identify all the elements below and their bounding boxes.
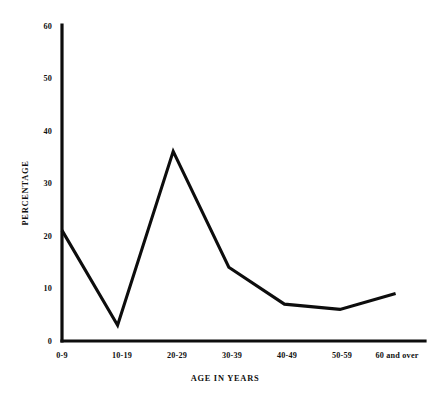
x-tick-label-10-19: 10-19 [112, 351, 132, 360]
y-tick-label-0: 0 [48, 337, 52, 346]
y-tick-label-30: 30 [43, 179, 52, 188]
x-tick-label-40-49: 40-49 [277, 351, 297, 360]
x-tick-label-20-29: 20-29 [167, 351, 187, 360]
chart-canvas: 60 50 40 30 20 10 0 0-9 10-19 20-29 30-3… [0, 0, 439, 406]
x-tick-label-50-59: 50-59 [332, 351, 352, 360]
y-axis-title: PERCENTAGE [21, 160, 30, 225]
x-axis-title: AGE IN YEARS [191, 374, 260, 383]
y-tick-label-20: 20 [43, 232, 52, 241]
x-tick-label-0-9: 0-9 [56, 351, 68, 360]
x-tick-label-30-39: 30-39 [222, 351, 242, 360]
data-series-line [62, 151, 396, 325]
y-tick-label-10: 10 [43, 284, 52, 293]
y-tick-label-40: 40 [43, 127, 52, 136]
x-tick-label-60-and-over: 60 and over [375, 351, 418, 360]
y-tick-label-50: 50 [43, 74, 52, 83]
line-chart: 60 50 40 30 20 10 0 0-9 10-19 20-29 30-3… [0, 0, 439, 406]
y-tick-label-60: 60 [43, 22, 52, 31]
